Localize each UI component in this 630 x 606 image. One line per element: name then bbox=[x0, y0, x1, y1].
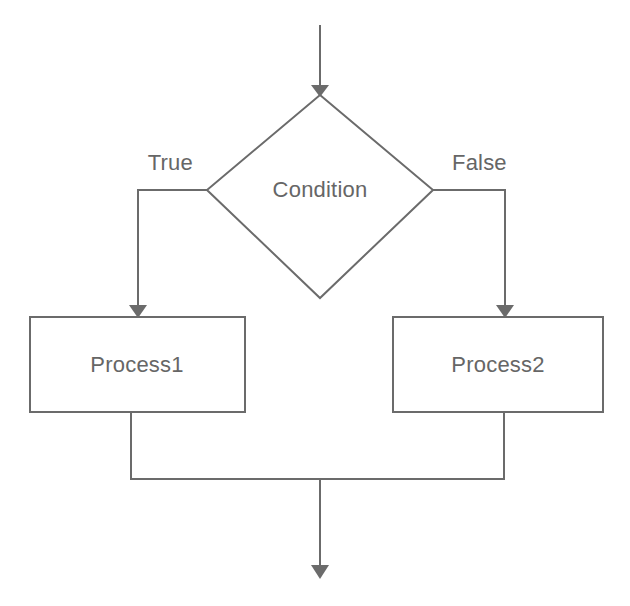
false-branch-label: False bbox=[452, 150, 507, 175]
node-process2[interactable]: Process2 bbox=[393, 317, 603, 412]
flowchart-diagram: Condition True False Process1 Process2 bbox=[0, 0, 630, 606]
process2-label: Process2 bbox=[451, 352, 544, 377]
condition-label: Condition bbox=[273, 177, 368, 202]
merge-connector-line bbox=[131, 412, 504, 479]
process1-label: Process1 bbox=[90, 352, 183, 377]
true-branch-label: True bbox=[148, 150, 193, 175]
true-branch-connector-line bbox=[138, 190, 207, 309]
edge-false-branch: False bbox=[433, 150, 514, 318]
exit-arrowhead-icon bbox=[311, 565, 329, 579]
node-process1[interactable]: Process1 bbox=[30, 317, 245, 412]
edge-exit bbox=[311, 479, 329, 579]
edge-merge bbox=[131, 412, 504, 479]
edge-entry bbox=[311, 25, 329, 97]
flowchart-canvas: Condition True False Process1 Process2 bbox=[0, 0, 630, 606]
false-branch-connector-line bbox=[433, 190, 505, 309]
node-condition[interactable]: Condition bbox=[207, 95, 433, 298]
edge-true-branch: True bbox=[129, 150, 207, 318]
